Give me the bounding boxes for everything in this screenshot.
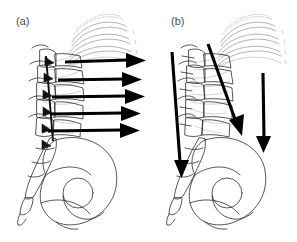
pelvis-b xyxy=(189,138,266,230)
vertebral-arches-b xyxy=(178,45,205,137)
pelvis-a xyxy=(40,138,117,230)
panel-a: (a) xyxy=(0,0,148,242)
arrow-left-vertical xyxy=(172,52,189,178)
panel-a-illustration xyxy=(0,0,148,242)
panel-b-illustration xyxy=(149,0,297,242)
arrow-5 xyxy=(48,123,140,138)
sacrum-coccyx-b xyxy=(167,138,206,225)
sacrum-coccyx-a xyxy=(18,138,57,225)
arrow-diagonal-spine xyxy=(208,44,244,136)
panel-b: (b) xyxy=(149,0,297,242)
figure-container: (a) xyxy=(0,0,297,242)
arrow-4 xyxy=(50,106,141,121)
arrow-right-vertical xyxy=(256,73,271,153)
